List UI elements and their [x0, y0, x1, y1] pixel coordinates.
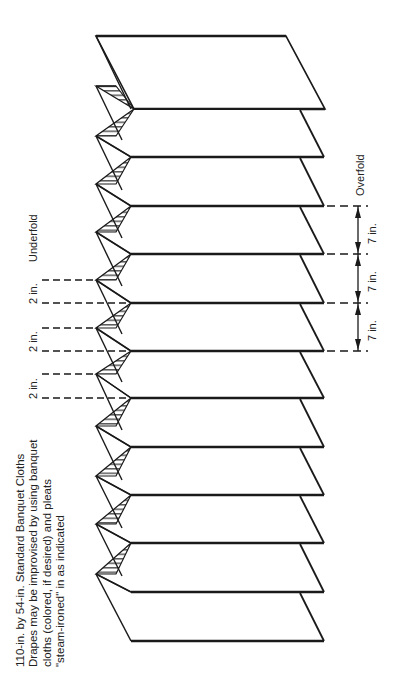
caption-line: 110-in. by 54-in. Standard Banquet Cloth…: [14, 439, 27, 667]
drape-panel: [96, 36, 325, 109]
pleat-depth-label: 2 in.: [27, 331, 40, 352]
pleat-spacing-label: 7 in.: [366, 271, 379, 292]
pleat-depth-label: 2 in.: [27, 378, 40, 399]
pleat-depth-label: 2 in.: [27, 283, 40, 304]
pleat-depth-dimensions: [42, 280, 131, 398]
caption: 110-in. by 54-in. Standard Banquet Cloth…: [14, 439, 67, 667]
pleat-spacing-label: 7 in.: [366, 320, 379, 341]
drape-panel: [96, 495, 324, 543]
pleat-spacing-dimensions: [327, 206, 368, 351]
drape-panel: [96, 574, 324, 641]
drape-panel: [96, 157, 324, 206]
drape-panel: [96, 398, 324, 447]
caption-line: cloths (colored, if desired) and pleats: [41, 439, 54, 667]
overfold-label: Overfold: [354, 154, 367, 196]
drape-panel: [96, 109, 324, 157]
drape-panel: [96, 303, 324, 351]
drape-panel: [96, 351, 324, 398]
caption-line: "steam-ironed" in as indicated: [54, 439, 67, 667]
caption-line: Drapes may be improvised by using banque…: [27, 439, 40, 667]
pleat-hatch: [96, 157, 131, 184]
drape-panels: [96, 36, 325, 641]
pleat-hatch: [96, 351, 131, 374]
underfold-label: Underfold: [27, 214, 40, 262]
drape-panel: [96, 543, 324, 592]
pleat-spacing-label: 7 in.: [366, 223, 379, 244]
drape-panel: [96, 254, 324, 303]
drape-panel: [96, 206, 324, 254]
drape-panel: [96, 447, 324, 495]
